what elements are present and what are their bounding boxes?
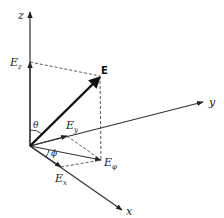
dashed-ex-to-ephi	[61, 160, 101, 167]
z-axis-label: z	[17, 9, 24, 22]
theta-label: θ	[33, 120, 39, 130]
svg-text:y: y	[73, 126, 79, 134]
svg-text:E: E	[54, 172, 63, 185]
y-axis-label: y	[208, 96, 216, 109]
svg-text:E: E	[9, 56, 18, 69]
e-vector-label: E	[101, 65, 108, 76]
phi-arc	[46, 150, 49, 157]
phi-label: ϕ	[51, 148, 57, 158]
ephi-label: E φ	[103, 156, 117, 171]
svg-text:E: E	[103, 156, 112, 169]
e-vector	[30, 77, 100, 146]
theta-arc	[30, 130, 42, 134]
vector-diagram: z y x E E z E y E x E φ θ ϕ	[0, 0, 224, 218]
diagram-canvas: z y x E E z E y E x E φ θ ϕ	[0, 0, 224, 218]
svg-text:φ: φ	[112, 163, 117, 171]
svg-text:x: x	[63, 179, 67, 187]
dashed-e-to-ephi	[100, 76, 101, 160]
dashed-ez-to-e	[30, 62, 100, 76]
x-axis-label: x	[126, 205, 133, 218]
ez-label: E z	[9, 56, 22, 71]
svg-text:E: E	[65, 119, 74, 132]
ex-label: E x	[54, 172, 67, 187]
svg-text:z: z	[17, 63, 22, 71]
ey-label: E y	[65, 119, 79, 134]
